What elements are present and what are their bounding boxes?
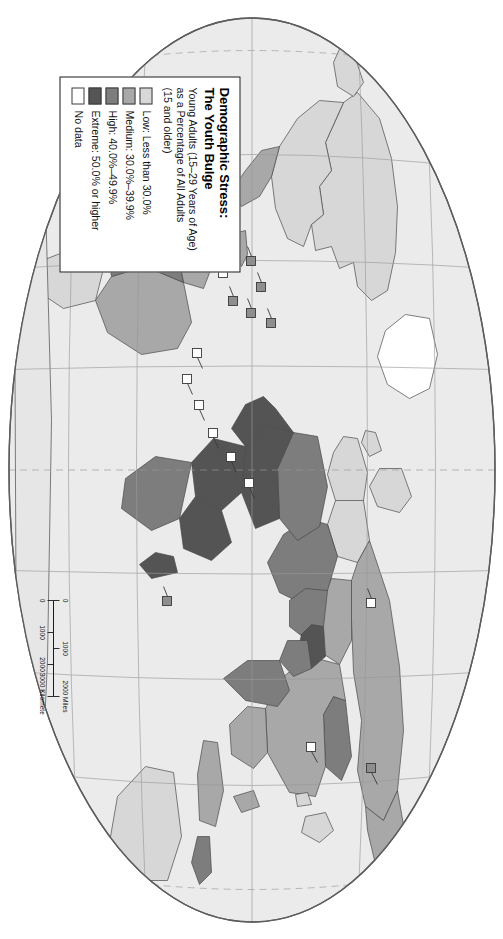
legend-label-medium: Medium: 30.0%–39.9%: [123, 110, 134, 220]
legend-title-line-2: The Youth Bulge: [201, 87, 216, 261]
legend-label-no-data: No data: [72, 110, 83, 147]
legend-title: Demographic Stress: The Youth Bulge: [201, 87, 231, 261]
legend-label-low: Low: Less than 30.0%: [140, 110, 151, 214]
legend-swatch-low: [139, 87, 152, 104]
legend-item-extreme[interactable]: Extreme: 50.0% or higher: [86, 87, 103, 261]
legend-title-line-1: Demographic Stress:: [216, 87, 231, 261]
region-new-zealand[interactable]: [91, 900, 119, 924]
callout-box: [432, 88, 441, 107]
legend-label-extreme: Extreme: 50.0% or higher: [89, 110, 100, 230]
legend-items: Low: Less than 30.0% Medium: 30.0%–39.9%…: [69, 87, 154, 261]
legend-subtitle-line-1: Young Adults (15–29 Years of Age): [186, 87, 198, 261]
legend-item-high[interactable]: High: 40.0%–49.9%: [103, 87, 120, 261]
scale-label-km: 3000 Kilometers: [38, 672, 45, 714]
callout-box: [439, 862, 448, 881]
callout-box: [412, 890, 421, 909]
region-antarctica[interactable]: [13, 40, 51, 920]
legend-swatch-high: [105, 87, 118, 104]
scale-bar-km: [47, 600, 53, 696]
legend-box[interactable]: Demographic Stress: The Youth Bulge Youn…: [59, 76, 240, 272]
scale-tick-miles-1000: 1000: [61, 641, 68, 656]
scale-tick-km-1000: 1000: [38, 625, 45, 640]
scale-tick-miles-0: 0: [61, 598, 68, 602]
map-stage: Demographic Stress: The Youth Bulge Youn…: [0, 0, 503, 939]
legend-subtitle: Young Adults (15–29 Years of Age) as a P…: [161, 87, 198, 261]
scale-tick-km-0: 0: [38, 598, 45, 602]
legend-item-low[interactable]: Low: Less than 30.0%: [137, 87, 154, 261]
scale-label-miles: 2000 Miles: [61, 680, 68, 713]
legend-swatch-no-data: [71, 87, 84, 104]
legend-swatch-medium: [122, 87, 135, 104]
callout-box: [434, 785, 444, 806]
callout-box: [408, 818, 419, 838]
scale-bar: 0 1000 2000 Miles 0 1000 2000 3000 Kilom…: [19, 596, 75, 714]
legend-item-no-data[interactable]: No data: [69, 87, 86, 261]
legend-label-high: High: 40.0%–49.9%: [106, 110, 117, 204]
legend-swatch-extreme: [88, 87, 101, 104]
legend-item-medium[interactable]: Medium: 30.0%–39.9%: [120, 87, 137, 261]
scale-tick-km-2000: 2000: [38, 657, 45, 672]
callout-box: [451, 826, 461, 846]
map-figure: Demographic Stress: The Youth Bulge Youn…: [0, 0, 503, 939]
legend-subtitle-line-2: as a Percentage of All Adults: [173, 87, 185, 261]
callout-box: [398, 856, 407, 875]
legend-subtitle-line-3: (15 and older): [161, 87, 173, 261]
